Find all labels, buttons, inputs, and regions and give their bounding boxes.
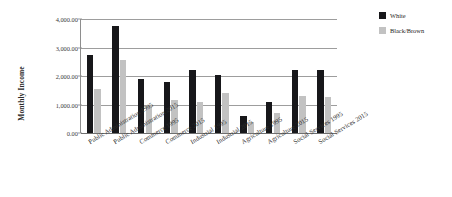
y-tick-label: 1,000.00 xyxy=(32,101,78,108)
bar xyxy=(112,26,119,133)
y-tick-label: 3,000.00 xyxy=(32,44,78,51)
bar xyxy=(222,93,229,133)
legend-swatch-icon xyxy=(379,12,386,19)
chart-legend: WhiteBlack/Brown xyxy=(379,12,449,42)
bar-series-group xyxy=(81,19,337,133)
y-axis-title: Monthly Income xyxy=(14,48,28,138)
legend-swatch-icon xyxy=(379,27,386,34)
legend-item: White xyxy=(379,12,449,19)
bar-chart-figure: Monthly Income 0.001,000.002,000.003,000… xyxy=(0,0,452,197)
legend-label: Black/Brown xyxy=(390,27,424,34)
x-axis-labels: Public Administration 1995Public Adminis… xyxy=(0,133,452,197)
bar xyxy=(94,89,101,133)
y-axis-title-label: Monthly Income xyxy=(17,66,26,121)
legend-label: White xyxy=(390,12,406,19)
y-tick-label: 4,000.00 xyxy=(32,16,78,23)
y-tick-label: 2,000.00 xyxy=(32,73,78,80)
plot-area xyxy=(80,19,337,133)
bar xyxy=(87,55,94,133)
legend-item: Black/Brown xyxy=(379,27,449,34)
